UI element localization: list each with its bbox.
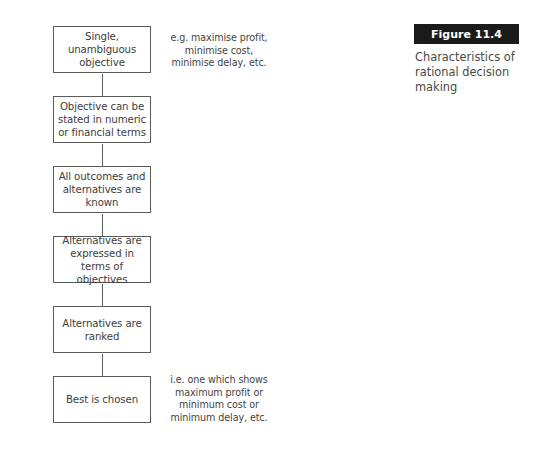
- step-outcomes-known: All outcomes and alternatives are known: [53, 166, 151, 213]
- step-alternatives-ranked: Alternatives are ranked: [53, 306, 151, 353]
- note-best-choice-explanation: i.e. one which shows maximum profit or m…: [160, 374, 278, 424]
- step-best-chosen: Best is chosen: [53, 376, 151, 423]
- figure-label: Figure 11.4: [414, 24, 519, 44]
- step-label: Objective can be stated in numeric or fi…: [56, 100, 148, 139]
- step-numeric-objective: Objective can be stated in numeric or fi…: [53, 96, 151, 143]
- step-label: Single, unambiguous objective: [56, 30, 148, 69]
- connector-line: [102, 144, 103, 166]
- step-label: Best is chosen: [66, 393, 138, 406]
- connector-line: [102, 74, 103, 96]
- connector-line: [102, 354, 103, 376]
- step-label: All outcomes and alternatives are known: [56, 170, 148, 209]
- connector-line: [102, 284, 103, 306]
- figure-caption: Characteristics of rational decision mak…: [415, 50, 530, 95]
- step-alternatives-expressed: Alternatives are expressed in terms of o…: [53, 236, 151, 283]
- step-single-objective: Single, unambiguous objective: [53, 26, 151, 73]
- note-objective-examples: e.g. maximise profit, minimise cost, min…: [168, 32, 270, 70]
- step-label: Alternatives are expressed in terms of o…: [56, 234, 148, 286]
- step-label: Alternatives are ranked: [56, 317, 148, 343]
